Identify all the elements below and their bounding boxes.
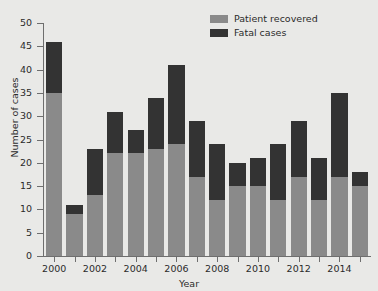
y-axis-tick (37, 70, 43, 71)
x-axis-line (43, 256, 371, 257)
y-axis-tick (37, 163, 43, 164)
bar-segment-fatal (128, 130, 144, 153)
y-axis-tick (37, 23, 43, 24)
x-axis-tick (197, 257, 198, 262)
x-axis-tick (75, 257, 76, 262)
y-axis-label: 45 (2, 41, 32, 51)
legend-label: Patient recovered (234, 13, 318, 24)
legend-item: Patient recovered (210, 13, 318, 24)
x-axis-label: 2014 (319, 264, 359, 274)
y-axis-label: 0 (2, 251, 32, 261)
x-axis-tick (217, 257, 218, 262)
x-axis-title: Year (0, 278, 378, 289)
chart-legend: Patient recoveredFatal cases (210, 13, 318, 41)
bar-2015 (352, 172, 368, 256)
bar-segment-fatal (87, 149, 103, 196)
bar-segment-recovered (148, 149, 164, 256)
bar-segment-fatal (209, 144, 225, 200)
bar-2010 (250, 158, 266, 256)
y-axis-tick (37, 209, 43, 210)
bar-segment-fatal (148, 98, 164, 149)
bar-2005 (148, 98, 164, 256)
bar-2012 (291, 121, 307, 256)
y-axis-tick (37, 256, 43, 257)
bar-segment-fatal (311, 158, 327, 200)
bar-segment-recovered (107, 153, 123, 256)
y-axis-tick (37, 140, 43, 141)
x-axis-tick (278, 257, 279, 262)
x-axis-label: 2008 (197, 264, 237, 274)
x-axis-tick (360, 257, 361, 262)
bar-2004 (128, 130, 144, 256)
bar-segment-recovered (250, 186, 266, 256)
bar-segment-fatal (189, 121, 205, 177)
x-axis-tick (299, 257, 300, 262)
y-axis-tick (37, 233, 43, 234)
bar-2008 (209, 144, 225, 256)
legend-swatch-icon (210, 15, 228, 23)
bar-2001 (66, 205, 82, 256)
bar-2003 (107, 112, 123, 256)
bar-2011 (270, 144, 286, 256)
x-axis-tick (136, 257, 137, 262)
bar-segment-fatal (331, 93, 347, 177)
bar-segment-recovered (270, 200, 286, 256)
bar-2009 (229, 163, 245, 256)
y-axis-label: 15 (2, 181, 32, 191)
legend-item: Fatal cases (210, 27, 318, 38)
bar-segment-recovered (209, 200, 225, 256)
x-axis-tick (115, 257, 116, 262)
y-axis-label: 10 (2, 204, 32, 214)
bar-segment-recovered (229, 186, 245, 256)
bar-2007 (189, 121, 205, 256)
x-axis-label: 2002 (75, 264, 115, 274)
x-axis-label: 2000 (34, 264, 74, 274)
bar-2013 (311, 158, 327, 256)
bar-segment-fatal (107, 112, 123, 154)
bar-segment-recovered (168, 144, 184, 256)
x-axis-tick (95, 257, 96, 262)
bar-segment-recovered (46, 93, 62, 256)
y-axis-title: Number of cases (9, 58, 20, 178)
x-axis-label: 2006 (156, 264, 196, 274)
plot-area (44, 23, 370, 256)
y-axis-tick (37, 186, 43, 187)
bar-segment-recovered (331, 177, 347, 256)
bar-segment-recovered (189, 177, 205, 256)
x-axis-label: 2012 (279, 264, 319, 274)
x-axis-tick (319, 257, 320, 262)
x-axis-tick (176, 257, 177, 262)
x-axis-tick (339, 257, 340, 262)
x-axis-tick (258, 257, 259, 262)
bar-segment-recovered (66, 214, 82, 256)
bar-segment-recovered (311, 200, 327, 256)
bar-segment-fatal (46, 42, 62, 93)
y-axis-label: 50 (2, 18, 32, 28)
bar-2000 (46, 42, 62, 256)
bar-segment-fatal (66, 205, 82, 214)
bar-segment-fatal (352, 172, 368, 186)
y-axis-tick (37, 93, 43, 94)
x-axis-label: 2004 (116, 264, 156, 274)
bar-segment-recovered (291, 177, 307, 256)
x-axis-tick (54, 257, 55, 262)
bar-segment-fatal (291, 121, 307, 177)
bar-segment-recovered (87, 195, 103, 256)
bar-2002 (87, 149, 103, 256)
bar-2006 (168, 65, 184, 256)
bar-segment-recovered (352, 186, 368, 256)
legend-swatch-icon (210, 29, 228, 37)
x-axis-tick (156, 257, 157, 262)
bar-segment-fatal (250, 158, 266, 186)
x-axis-label: 2010 (238, 264, 278, 274)
bar-segment-fatal (270, 144, 286, 200)
bar-segment-recovered (128, 153, 144, 256)
bar-chart: 05101520253035404550 2000200220042006200… (0, 0, 378, 291)
y-axis-tick (37, 116, 43, 117)
x-axis-tick (238, 257, 239, 262)
bar-2014 (331, 93, 347, 256)
bar-segment-fatal (229, 163, 245, 186)
legend-label: Fatal cases (234, 27, 286, 38)
y-axis-tick (37, 46, 43, 47)
y-axis-label: 5 (2, 228, 32, 238)
